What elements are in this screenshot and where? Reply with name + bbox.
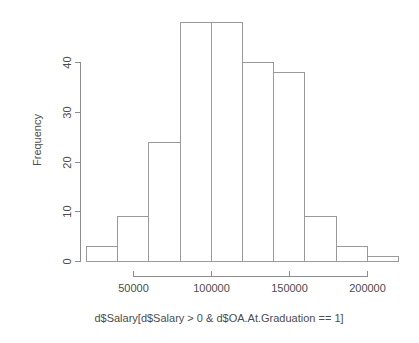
- histogram-bars: [87, 23, 399, 262]
- y-tick-label-30: 30: [61, 106, 73, 118]
- histogram-bar: [274, 73, 305, 262]
- histogram-chart: 40 30 20 10 0 Frequency: [0, 0, 419, 343]
- x-axis-title: d$Salary[d$Salary > 0 & d$OA.At.Graduati…: [94, 312, 343, 324]
- histogram-bar: [118, 217, 149, 262]
- histogram-plot-container: 40 30 20 10 0 Frequency: [0, 0, 419, 343]
- x-tick-label-150000: 150000: [271, 282, 308, 294]
- histogram-bar: [367, 257, 398, 262]
- y-tick-label-20: 20: [61, 156, 73, 168]
- histogram-bar: [336, 247, 367, 262]
- histogram-bar: [305, 217, 336, 262]
- x-axis: 50000 100000 150000 200000 d$Salary[d$Sa…: [94, 271, 385, 325]
- x-tick-label-100000: 100000: [193, 282, 230, 294]
- histogram-bar: [87, 247, 118, 262]
- histogram-bar: [180, 23, 211, 262]
- y-tick-label-40: 40: [61, 56, 73, 68]
- y-tick-label-0: 0: [61, 258, 73, 264]
- histogram-bar: [243, 63, 274, 262]
- y-axis-title: Frequency: [31, 114, 43, 166]
- x-tick-label-200000: 200000: [349, 282, 386, 294]
- y-axis: 40 30 20 10 0 Frequency: [31, 56, 81, 264]
- histogram-bar: [211, 23, 242, 262]
- histogram-bar: [149, 142, 180, 261]
- x-tick-label-50000: 50000: [118, 282, 149, 294]
- y-tick-label-10: 10: [61, 205, 73, 217]
